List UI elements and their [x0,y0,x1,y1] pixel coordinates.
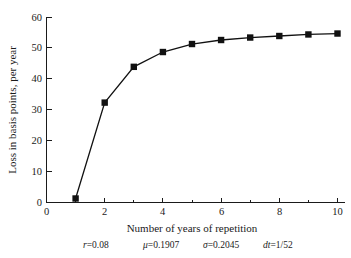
data-point [276,33,282,39]
x-tick-label-10: 10 [332,206,343,217]
y-axis-title: Loss in basis points, per year [6,46,18,174]
caption-param: dt=1/52 [263,240,293,250]
x-tick-label-0: 0 [44,206,49,217]
caption-value: =0.1907 [148,240,180,250]
chart-caption: r=0.08μ=0.1907σ=0.2045dt=1/52 [83,240,293,250]
y-tick-label-10: 10 [32,166,43,177]
chart-figure: Loss in basis points, per year 0 10 20 3… [0,0,351,258]
caption-param: σ=0.2045 [203,240,239,250]
caption-param: μ=0.1907 [142,240,180,250]
y-tick-label-40: 40 [32,73,43,84]
data-point [334,30,340,36]
data-point [218,37,224,43]
data-point [305,31,311,37]
caption-value: =0.08 [87,240,109,250]
y-tick-label-30: 30 [32,104,43,115]
x-tick-label-4: 4 [160,206,166,217]
y-tick-label-0: 0 [37,197,42,208]
chart-svg: Loss in basis points, per year 0 10 20 3… [0,0,351,258]
y-tick-label-20: 20 [32,135,43,146]
series-line [76,34,338,199]
series-markers [72,30,340,201]
caption-param: r=0.08 [83,240,109,250]
data-point [189,41,195,47]
data-point [160,49,166,55]
x-tick-label-6: 6 [219,206,224,217]
y-tick-label-60: 60 [32,12,43,23]
y-tick-label-50: 50 [32,42,43,53]
caption-value: =0.2045 [208,240,240,250]
x-axis-title: Number of years of repetition [127,222,258,234]
data-point [247,34,253,40]
caption-value: =1/52 [270,240,292,250]
data-point [131,64,137,70]
data-point [72,195,78,201]
x-tick-label-2: 2 [102,206,107,217]
x-tick-label-8: 8 [277,206,282,217]
data-point [102,99,108,105]
